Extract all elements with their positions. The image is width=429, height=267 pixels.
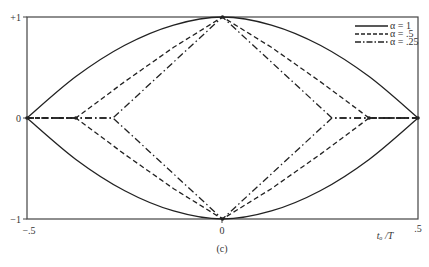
x-tick-left: −.5 <box>22 225 35 236</box>
series-1-lower-curve <box>27 118 418 219</box>
legend: α = 1 α = .5 α = .25 <box>355 20 418 47</box>
eye-diagram-chart: +1 0 −1 −.5 0 .5 tₒ /T (c) α = 1 α = .5 … <box>0 0 429 267</box>
series-1-upper-curve <box>27 17 418 118</box>
vertex-dot <box>221 15 225 19</box>
legend-label-alpha-025: α = .25 <box>390 36 418 47</box>
vertex-dot <box>221 217 225 221</box>
y-tick-top: +1 <box>10 12 21 23</box>
tick-marks <box>23 17 222 223</box>
figure-caption: (c) <box>216 243 227 255</box>
x-tick-mid: 0 <box>220 225 225 236</box>
vertex-dot <box>74 116 78 120</box>
x-axis-label: tₒ /T <box>377 230 395 241</box>
series-2-upper-curve <box>27 17 418 118</box>
series-2-lower-curve <box>27 118 418 219</box>
y-tick-bot: −1 <box>10 214 21 225</box>
series-0-upper-curve <box>27 17 418 118</box>
vertex-dot <box>416 116 420 120</box>
y-tick-mid: 0 <box>16 113 21 124</box>
x-tick-right: .5 <box>414 223 422 234</box>
vertex-dot <box>25 116 29 120</box>
vertex-dot <box>367 116 371 120</box>
series-0-lower-curve <box>27 118 418 219</box>
series-curves <box>25 15 420 221</box>
